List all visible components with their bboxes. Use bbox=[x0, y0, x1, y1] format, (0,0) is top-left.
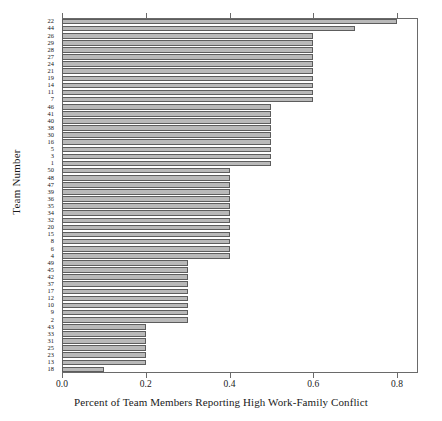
bar bbox=[62, 203, 230, 209]
bar-row bbox=[62, 154, 418, 160]
bar bbox=[62, 61, 313, 67]
y-axis-tick-labels: 2244262928272421191411746414038301653150… bbox=[0, 18, 58, 373]
bar-row bbox=[62, 232, 418, 238]
x-axis-tick-label: 0.2 bbox=[140, 379, 152, 389]
bar bbox=[62, 147, 271, 153]
bar-row bbox=[62, 303, 418, 309]
bar bbox=[62, 189, 230, 195]
bar bbox=[62, 274, 188, 280]
bar bbox=[62, 310, 188, 316]
x-axis-tick-label: 0.0 bbox=[56, 379, 68, 389]
bar-row bbox=[62, 296, 418, 302]
bar bbox=[62, 26, 355, 32]
bar-row bbox=[62, 367, 418, 373]
bar-row bbox=[62, 104, 418, 110]
bar bbox=[62, 253, 230, 259]
bar-row bbox=[62, 161, 418, 167]
x-axis-tick-mark bbox=[313, 373, 314, 378]
y-axis-tick-label: 48 bbox=[48, 175, 54, 181]
bar bbox=[62, 303, 188, 309]
y-axis-tick-label: 9 bbox=[51, 309, 54, 315]
bar-row bbox=[62, 168, 418, 174]
bar-row bbox=[62, 246, 418, 252]
bar bbox=[62, 54, 313, 60]
bar bbox=[62, 83, 313, 89]
x-axis-tick-mark-top bbox=[313, 13, 314, 18]
bar-row bbox=[62, 19, 418, 25]
bar-row bbox=[62, 331, 418, 337]
bar-row bbox=[62, 132, 418, 138]
bar-row bbox=[62, 360, 418, 366]
bar bbox=[62, 239, 230, 245]
bar-row bbox=[62, 68, 418, 74]
bar-row bbox=[62, 218, 418, 224]
y-axis-tick-label: 8 bbox=[51, 238, 54, 244]
y-axis-tick-label: 44 bbox=[48, 25, 54, 31]
bar bbox=[62, 168, 230, 174]
bar-chart: Team Number 2244262928272421191411746414… bbox=[0, 0, 442, 421]
bar-row bbox=[62, 125, 418, 131]
bar bbox=[62, 196, 230, 202]
bar-row bbox=[62, 118, 418, 124]
bars-layer bbox=[62, 18, 418, 373]
bar bbox=[62, 210, 230, 216]
x-axis-title: Percent of Team Members Reporting High W… bbox=[0, 396, 442, 408]
bar-row bbox=[62, 289, 418, 295]
bar bbox=[62, 161, 271, 167]
x-axis-tick-mark bbox=[146, 373, 147, 378]
bar-row bbox=[62, 189, 418, 195]
x-axis-tick-label: 0.4 bbox=[224, 379, 236, 389]
y-axis-tick-label: 6 bbox=[51, 246, 54, 252]
x-axis-tick-mark-top bbox=[62, 13, 63, 18]
x-axis-tick-mark-top bbox=[146, 13, 147, 18]
bar-row bbox=[62, 239, 418, 245]
y-axis-tick-label: 7 bbox=[51, 96, 54, 102]
bar-row bbox=[62, 352, 418, 358]
bar-row bbox=[62, 274, 418, 280]
bar bbox=[62, 111, 271, 117]
bar-row bbox=[62, 54, 418, 60]
bar-row bbox=[62, 111, 418, 117]
bar bbox=[62, 90, 313, 96]
bar-row bbox=[62, 175, 418, 181]
bar bbox=[62, 47, 313, 53]
x-axis-tick-mark-top bbox=[397, 13, 398, 18]
bar bbox=[62, 97, 313, 103]
bar-row bbox=[62, 281, 418, 287]
bar bbox=[62, 19, 397, 25]
x-axis-tick-label: 0.8 bbox=[391, 379, 403, 389]
bar bbox=[62, 289, 188, 295]
bar-row bbox=[62, 225, 418, 231]
bar bbox=[62, 352, 146, 358]
bar bbox=[62, 281, 188, 287]
bar-row bbox=[62, 345, 418, 351]
bar bbox=[62, 367, 104, 373]
bar bbox=[62, 345, 146, 351]
bar-row bbox=[62, 203, 418, 209]
x-axis-tick-label: 0.6 bbox=[307, 379, 319, 389]
bar bbox=[62, 260, 188, 266]
y-axis-tick-label: 26 bbox=[48, 33, 54, 39]
bar bbox=[62, 246, 230, 252]
bar-row bbox=[62, 40, 418, 46]
bar-row bbox=[62, 61, 418, 67]
bar-row bbox=[62, 33, 418, 39]
bar bbox=[62, 139, 271, 145]
bar bbox=[62, 225, 230, 231]
bar-row bbox=[62, 310, 418, 316]
bar bbox=[62, 76, 313, 82]
bar bbox=[62, 232, 230, 238]
bar-row bbox=[62, 90, 418, 96]
bar bbox=[62, 331, 146, 337]
bar-row bbox=[62, 338, 418, 344]
bar-row bbox=[62, 253, 418, 259]
bar bbox=[62, 175, 230, 181]
bar-row bbox=[62, 83, 418, 89]
bar-row bbox=[62, 267, 418, 273]
bar-row bbox=[62, 47, 418, 53]
bar-row bbox=[62, 76, 418, 82]
bar bbox=[62, 125, 271, 131]
bar-row bbox=[62, 317, 418, 323]
bar bbox=[62, 40, 313, 46]
bar-row bbox=[62, 139, 418, 145]
